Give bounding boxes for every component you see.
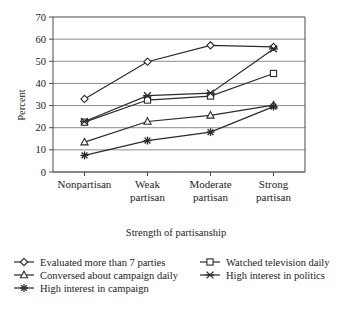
x-category-label: Weak	[135, 178, 160, 190]
series-polyline	[85, 45, 274, 99]
marker-diamond	[20, 258, 27, 265]
marker-asterisk	[207, 128, 215, 136]
legend-item: Conversed about campaign daily	[14, 270, 179, 281]
marker-square	[270, 70, 276, 76]
x-tick-labels: NonpartisanWeakpartisanModeratepartisanS…	[58, 178, 292, 203]
series-layer	[80, 42, 278, 160]
marker-square	[207, 259, 213, 265]
marker-asterisk	[144, 137, 152, 145]
marker-asterisk	[270, 103, 278, 111]
marker-asterisk	[81, 151, 89, 159]
series-polyline	[85, 73, 274, 122]
x-category-label: Moderate	[189, 178, 231, 190]
x-category-label: partisan	[130, 191, 165, 203]
marker-diamond	[207, 42, 214, 49]
partisanship-line-chart: Percent 010203040506070 NonpartisanWeakp…	[0, 0, 352, 312]
y-tick-labels: 010203040506070	[36, 12, 47, 178]
series-triangle	[81, 101, 277, 145]
y-tick-label: 0	[41, 167, 46, 178]
chart-legend: Evaluated more than 7 partiesWatched tel…	[14, 257, 330, 294]
series-polyline	[85, 49, 274, 122]
legend-label: Conversed about campaign daily	[40, 270, 179, 281]
marker-asterisk	[20, 284, 28, 292]
y-tick-label: 10	[36, 144, 47, 155]
legend-label: High interest in campaign	[40, 283, 150, 294]
y-tick-label: 40	[36, 78, 47, 89]
series-polyline	[85, 107, 274, 156]
y-tick-label: 50	[36, 56, 47, 67]
x-tick-marks	[85, 172, 274, 176]
legend-label: Evaluated more than 7 parties	[40, 257, 165, 268]
legend-label: High interest in politics	[226, 270, 325, 281]
marker-diamond	[81, 95, 88, 102]
y-tick-label: 70	[36, 12, 47, 23]
y-tick-label: 60	[36, 34, 47, 45]
x-category-label: Strong	[259, 178, 289, 190]
legend-item: High interest in campaign	[14, 283, 150, 294]
y-tick-label: 20	[36, 122, 47, 133]
legend-item: High interest in politics	[200, 270, 325, 281]
y-axis-title: Percent	[16, 89, 27, 121]
chart-container: Percent 010203040506070 NonpartisanWeakp…	[0, 0, 352, 312]
marker-diamond	[144, 58, 151, 65]
y-tick-label: 30	[36, 100, 47, 111]
legend-item: Watched television daily	[200, 257, 330, 268]
x-category-label: partisan	[256, 191, 291, 203]
marker-x-dash	[206, 272, 215, 279]
legend-label: Watched television daily	[226, 257, 330, 268]
x-category-label: partisan	[193, 191, 228, 203]
legend-item: Evaluated more than 7 parties	[14, 257, 165, 268]
x-category-label: Nonpartisan	[58, 178, 112, 190]
series-diamond	[81, 42, 277, 103]
x-axis-title: Strength of partisanship	[126, 227, 226, 238]
